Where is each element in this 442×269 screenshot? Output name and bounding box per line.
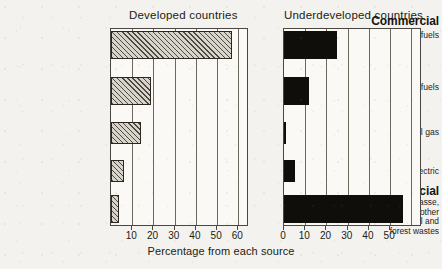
plot-area-underdeveloped <box>283 28 421 226</box>
tick-label-1-20: 20 <box>320 230 331 241</box>
bar-underdeveloped-natural-gas <box>284 122 286 144</box>
gridline-left-60 <box>238 29 239 225</box>
gridline-right-60 <box>411 29 412 225</box>
tick-label-1-0: 0 <box>280 230 286 241</box>
tick-label-0-10: 10 <box>126 230 137 241</box>
tick-label-1-10: 10 <box>299 230 310 241</box>
plot-area-developed <box>110 28 248 226</box>
bar-underdeveloped-liquid-fuels <box>284 77 309 105</box>
bar-developed-natural-gas <box>111 122 141 144</box>
tick-label-0-20: 20 <box>147 230 158 241</box>
bar-developed-hydro-electric <box>111 160 124 182</box>
chart-figure: Developed countries Underdeveloped count… <box>0 0 442 269</box>
bar-underdeveloped-solid-fuels <box>284 31 337 59</box>
bar-developed-solid-fuels <box>111 31 232 59</box>
tick-label-0-50: 50 <box>211 230 222 241</box>
group-heading-commercial: Commercial <box>334 14 442 28</box>
x-axis-caption: Percentage from each source <box>0 245 442 257</box>
tick-label-0-30: 30 <box>168 230 179 241</box>
tick-label-1-40: 40 <box>362 230 373 241</box>
bar-developed-non-commercial <box>111 195 119 223</box>
tick-label-0-40: 40 <box>189 230 200 241</box>
tick-label-1-30: 30 <box>341 230 352 241</box>
bar-developed-liquid-fuels <box>111 77 151 105</box>
bar-underdeveloped-hydro-electric <box>284 160 295 182</box>
panel-title-developed: Developed countries <box>129 9 238 21</box>
bar-underdeveloped-non-commercial <box>284 195 403 223</box>
tick-label-0-60: 60 <box>232 230 243 241</box>
tick-label-1-50: 50 <box>384 230 395 241</box>
